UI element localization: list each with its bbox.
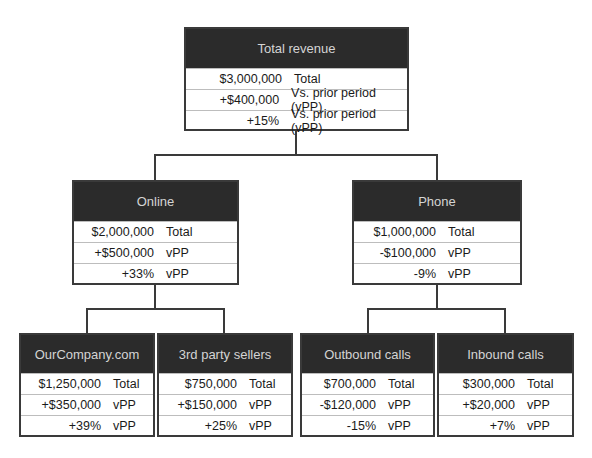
row-value: $3,000,000 [186,72,294,86]
node-row: +$20,000 vPP [439,394,572,415]
node-row: +25% vPP [159,415,291,436]
row-value: -9% [354,267,448,281]
row-value: +33% [74,267,166,281]
node-row: +$150,000 vPP [159,394,291,415]
row-label: vPP [448,246,471,260]
node-row: -9% vPP [354,263,520,284]
node-phone: Phone $1,000,000 Total -$100,000 vPP -9%… [352,180,522,285]
connector-phone-bar [367,308,506,310]
node-row: +$350,000 vPP [21,394,153,415]
row-label: Vs. prior period (vPP) [291,107,407,135]
node-total-revenue: Total revenue $3,000,000 Total +$400,000… [184,27,409,131]
node-row: $750,000 Total [159,373,291,394]
node-title: Outbound calls [302,335,433,373]
node-row: +7% vPP [439,415,572,436]
row-label: vPP [166,246,189,260]
row-label: vPP [388,419,411,433]
node-row: +33% vPP [74,263,237,284]
row-value: $300,000 [439,377,527,391]
row-value: $1,250,000 [21,377,113,391]
row-label: vPP [527,419,550,433]
row-label: Total [527,377,553,391]
node-title: Total revenue [186,29,407,68]
node-title: OurCompany.com [21,335,153,373]
row-value: -$100,000 [354,246,448,260]
connector-to-ourcompany [86,308,88,333]
node-row: +39% vPP [21,415,153,436]
row-label: vPP [527,398,550,412]
row-value: $2,000,000 [74,225,166,239]
connector-online-stem [154,284,156,309]
node-title: 3rd party sellers [159,335,291,373]
row-value: +7% [439,419,527,433]
row-value: $1,000,000 [354,225,448,239]
node-title: Phone [354,182,520,221]
row-value: +$500,000 [74,246,166,260]
connector-online-bar [86,308,225,310]
row-label: vPP [388,398,411,412]
node-title: Inbound calls [439,335,572,373]
row-value: +25% [159,419,249,433]
node-row: $700,000 Total [302,373,433,394]
row-value: +15% [186,114,291,128]
node-online: Online $2,000,000 Total +$500,000 vPP +3… [72,180,239,285]
row-value: +39% [21,419,113,433]
row-value: $700,000 [302,377,388,391]
connector-to-online [154,154,156,180]
row-label: Total [388,377,414,391]
node-row: $300,000 Total [439,373,572,394]
row-value: +$400,000 [186,93,291,107]
node-row: $1,000,000 Total [354,221,520,242]
node-inbound-calls: Inbound calls $300,000 Total +$20,000 vP… [437,333,574,437]
node-row: -$120,000 vPP [302,394,433,415]
row-label: vPP [249,398,272,412]
row-label: vPP [448,267,471,281]
node-outbound-calls: Outbound calls $700,000 Total -$120,000 … [300,333,435,437]
row-label: vPP [166,267,189,281]
row-value: +$20,000 [439,398,527,412]
node-row: -15% vPP [302,415,433,436]
node-3rd-party-sellers: 3rd party sellers $750,000 Total +$150,0… [157,333,293,437]
row-label: Total [294,72,320,86]
connector-to-inbound [504,308,506,333]
node-row: -$100,000 vPP [354,242,520,263]
connector-to-3rdparty [223,308,225,333]
node-title: Online [74,182,237,221]
row-value: +$150,000 [159,398,249,412]
row-label: vPP [113,398,136,412]
row-value: -$120,000 [302,398,388,412]
connector-to-outbound [367,308,369,333]
row-label: Total [113,377,139,391]
connector-to-phone [436,154,438,180]
row-label: Total [249,377,275,391]
row-value: +$350,000 [21,398,113,412]
node-row: $2,000,000 Total [74,221,237,242]
node-row: +15% Vs. prior period (vPP) [186,110,407,131]
node-row: $1,250,000 Total [21,373,153,394]
row-label: vPP [113,419,136,433]
row-label: Total [448,225,474,239]
row-value: -15% [302,419,388,433]
node-row: +$500,000 vPP [74,242,237,263]
row-label: vPP [249,419,272,433]
row-label: Total [166,225,192,239]
connector-root-bar [154,154,438,156]
connector-phone-stem [436,284,438,309]
row-value: $750,000 [159,377,249,391]
node-ourcompany: OurCompany.com $1,250,000 Total +$350,00… [19,333,155,437]
